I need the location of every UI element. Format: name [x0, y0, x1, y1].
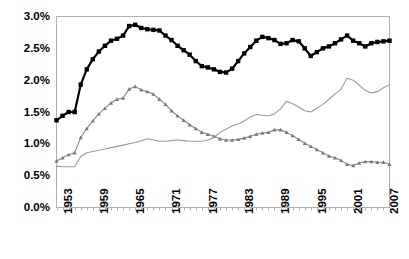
data-point-marker	[188, 53, 192, 57]
chart-plot	[0, 0, 409, 259]
data-point-marker	[109, 38, 113, 42]
data-point-marker	[85, 67, 89, 71]
data-point-marker	[54, 118, 58, 122]
data-point-marker	[266, 36, 270, 40]
data-point-marker	[157, 28, 161, 32]
data-point-marker	[248, 45, 252, 49]
data-point-marker	[321, 46, 325, 50]
y-axis-tick-label: 2.5%	[6, 42, 50, 54]
data-point-marker	[212, 67, 216, 71]
x-axis-tick-label: 1983	[243, 188, 255, 214]
x-axis-tick-label: 1989	[279, 188, 291, 214]
data-point-marker	[224, 70, 228, 74]
data-series-layer	[54, 23, 391, 168]
data-point-marker	[278, 42, 282, 46]
data-point-marker	[73, 151, 77, 155]
data-point-marker	[127, 24, 131, 28]
data-point-marker	[218, 70, 222, 74]
x-axis-tick-label: 1965	[134, 188, 146, 214]
x-axis-tick-label: 1977	[207, 188, 219, 214]
data-point-marker	[139, 26, 143, 30]
data-point-marker	[121, 33, 125, 37]
data-point-marker	[206, 65, 210, 69]
chart-container: 0.0%0.5%1.0%1.5%2.0%2.5%3.0% 19531959196…	[0, 0, 409, 259]
data-point-marker	[242, 51, 246, 55]
series-line-defense	[57, 87, 390, 166]
data-point-marker	[303, 46, 307, 50]
data-point-marker	[151, 28, 155, 32]
data-point-marker	[72, 110, 76, 114]
x-axis-tick-label: 2007	[388, 188, 400, 214]
data-point-marker	[333, 41, 337, 45]
y-axis-tick-label: 1.5%	[6, 106, 50, 118]
x-axis-tick-label: 1959	[98, 188, 110, 214]
data-point-marker	[381, 39, 385, 43]
y-axis-tick-label: 1.0%	[6, 137, 50, 149]
series-nondefense	[57, 78, 390, 166]
data-point-marker	[169, 38, 173, 42]
data-point-marker	[236, 59, 240, 63]
data-point-marker	[194, 59, 198, 63]
data-point-marker	[387, 38, 391, 42]
data-point-marker	[260, 35, 264, 39]
data-point-marker	[357, 41, 361, 45]
data-point-marker	[339, 37, 343, 41]
data-point-marker	[369, 41, 373, 45]
data-point-marker	[163, 33, 167, 37]
data-point-marker	[60, 114, 64, 118]
data-point-marker	[133, 85, 137, 89]
data-point-marker	[91, 57, 95, 61]
series-defense	[55, 85, 392, 168]
data-point-marker	[345, 33, 349, 37]
data-point-marker	[272, 38, 276, 42]
data-point-marker	[97, 49, 101, 53]
x-axis-tick-label: 2001	[352, 188, 364, 214]
data-point-marker	[290, 38, 294, 42]
y-axis-tick-label: 0.0%	[6, 201, 50, 213]
data-point-marker	[296, 39, 300, 43]
data-point-marker	[327, 44, 331, 48]
series-line-nondefense	[57, 78, 390, 166]
x-axis-tick-label: 1971	[170, 188, 182, 214]
data-point-marker	[230, 67, 234, 71]
y-axis-tick-label: 2.0%	[6, 74, 50, 86]
data-point-marker	[309, 54, 313, 58]
data-point-marker	[254, 38, 258, 42]
data-point-marker	[351, 38, 355, 42]
y-axis-tick-label: 3.0%	[6, 10, 50, 22]
data-point-marker	[145, 27, 149, 31]
data-point-marker	[115, 37, 119, 41]
x-axis-tick-label: 1953	[62, 188, 74, 214]
data-point-marker	[200, 64, 204, 68]
data-point-marker	[375, 40, 379, 44]
x-axis-tick-label: 1995	[316, 188, 328, 214]
data-point-marker	[181, 48, 185, 52]
data-point-marker	[175, 44, 179, 48]
data-point-marker	[79, 82, 83, 86]
data-point-marker	[103, 44, 107, 48]
data-point-marker	[315, 50, 319, 54]
data-point-marker	[133, 23, 137, 27]
data-point-marker	[66, 110, 70, 114]
data-point-marker	[284, 41, 288, 45]
data-point-marker	[363, 44, 367, 48]
y-axis-tick-label: 0.5%	[6, 169, 50, 181]
